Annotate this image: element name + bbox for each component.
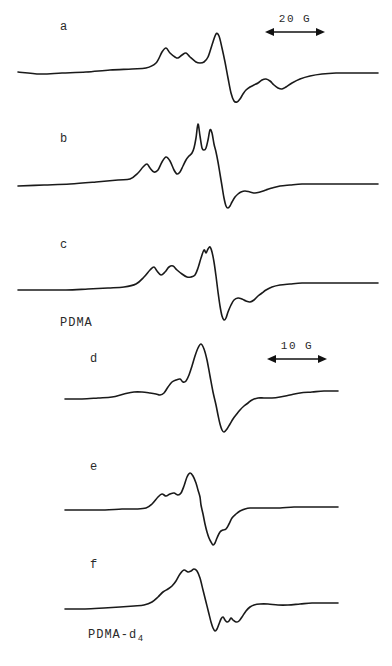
trace-b	[18, 124, 378, 208]
spectra-svg	[0, 0, 392, 666]
trace-a	[18, 33, 378, 102]
epr-spectra-figure: a b c d e f PDMA PDMA-d4 20 G 10 G	[0, 0, 392, 666]
trace-d	[65, 344, 338, 432]
trace-e	[65, 473, 338, 545]
trace-c	[18, 247, 378, 320]
spectra-traces	[0, 0, 392, 666]
trace-f	[65, 569, 338, 631]
